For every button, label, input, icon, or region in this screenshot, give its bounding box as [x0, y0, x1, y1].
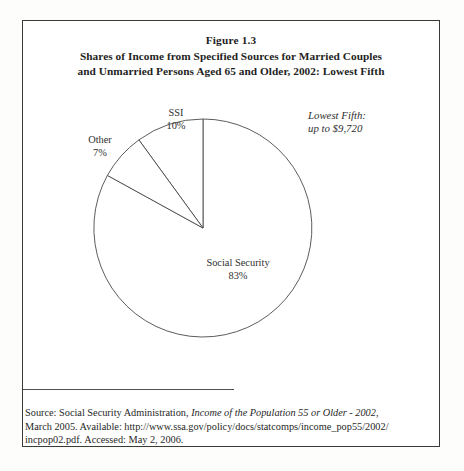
source-note: Source: Social Security Administration, … [25, 406, 433, 447]
figure-frame: Figure 1.3 Shares of Income from Specifi… [22, 20, 440, 447]
source-line-1: Source: Social Security Administration, … [25, 406, 433, 420]
pie-label-ssi-value: 10% [141, 120, 211, 133]
figure-page: Figure 1.3 Shares of Income from Specifi… [0, 0, 464, 471]
chart-annotation-line-1: Lowest Fifth: [308, 109, 438, 122]
source-divider [23, 389, 234, 390]
source-line-1-prefix: Source: Social Security Administration, [25, 407, 191, 418]
pie-label-social-security-name: Social Security [173, 257, 303, 270]
source-line-3: incpop02.pdf. Accessed: May 2, 2006. [25, 433, 433, 447]
pie-label-other-value: 7% [65, 147, 135, 160]
pie-label-ssi: SSI 10% [141, 107, 211, 132]
source-line-2: March 2005. Available: http://www.ssa.go… [25, 420, 433, 434]
pie-label-social-security: Social Security 83% [173, 257, 303, 282]
source-line-1-suffix: , [376, 407, 379, 418]
pie-label-ssi-name: SSI [141, 107, 211, 120]
chart-annotation-line-2: up to $9,720 [308, 122, 438, 135]
pie-label-other: Other 7% [65, 134, 135, 159]
pie-chart-svg [23, 21, 441, 448]
source-publication-title: Income of the Population 55 or Older - 2… [191, 407, 376, 418]
pie-label-social-security-value: 83% [173, 270, 303, 283]
pie-label-other-name: Other [65, 134, 135, 147]
chart-annotation: Lowest Fifth: up to $9,720 [308, 109, 438, 136]
pie-chart: SSI 10% Other 7% Social Security 83% Low… [23, 21, 441, 448]
